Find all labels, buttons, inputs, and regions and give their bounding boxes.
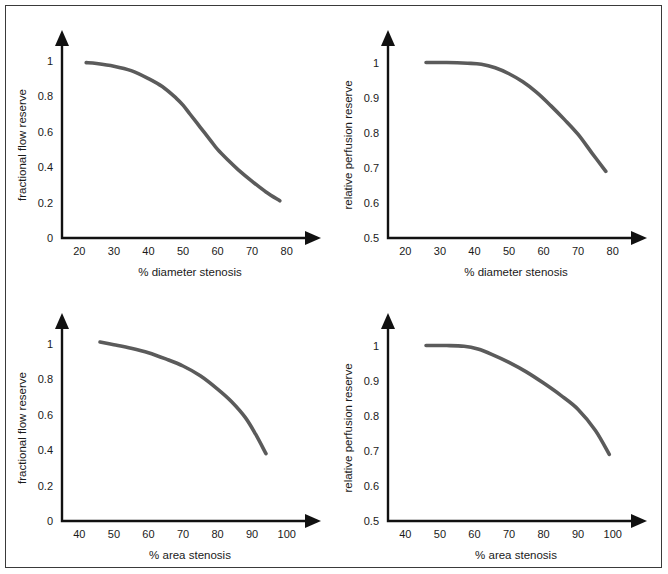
data-curve <box>426 62 606 171</box>
x-tick-label: 50 <box>177 245 189 257</box>
x-tick-label: 20 <box>73 245 85 257</box>
panel-ffr-area: 40506070809010000.20.40.60.81% area sten… <box>8 305 334 569</box>
axes <box>55 313 321 528</box>
panel-rpr-diameter: 203040506070800.50.60.70.80.91% diameter… <box>334 22 660 286</box>
axes <box>381 313 647 528</box>
data-curve <box>426 345 609 454</box>
y-tick-label: 0.6 <box>38 126 53 138</box>
y-tick-label: 0.5 <box>364 515 379 527</box>
y-axis-title: fractional flow reserve <box>16 372 28 484</box>
y-tick-label: 0.4 <box>38 444 53 456</box>
x-axis-title: % area stenosis <box>475 549 557 561</box>
y-tick-label: 0.6 <box>364 197 379 209</box>
y-axis-title: relative perfusion reserve <box>342 80 354 209</box>
x-tick-labels: 405060708090100 <box>399 528 622 540</box>
x-tick-label: 60 <box>468 528 480 540</box>
panel-rpr-area: 4050607080901000.50.60.70.80.91% area st… <box>334 305 660 569</box>
y-tick-label: 0 <box>47 232 53 244</box>
y-tick-label: 0.8 <box>38 90 53 102</box>
y-tick-labels: 0.50.60.70.80.91 <box>364 340 379 528</box>
y-tick-label: 0.8 <box>38 373 53 385</box>
data-curve <box>100 342 266 454</box>
x-tick-label: 70 <box>246 245 258 257</box>
y-tick-label: 1 <box>373 57 379 69</box>
x-tick-labels: 20304050607080 <box>399 245 619 257</box>
chart-rpr-diameter: 203040506070800.50.60.70.80.91% diameter… <box>334 22 660 286</box>
x-tick-label: 30 <box>108 245 120 257</box>
y-tick-label: 0 <box>47 515 53 527</box>
y-tick-label: 0.6 <box>38 409 53 421</box>
x-tick-label: 100 <box>604 528 622 540</box>
panel-ffr-diameter: 2030405060708000.20.40.60.81% diameter s… <box>8 22 334 286</box>
x-tick-label: 50 <box>434 528 446 540</box>
x-tick-label: 70 <box>503 528 515 540</box>
x-tick-label: 70 <box>572 245 584 257</box>
y-tick-label: 0.7 <box>364 162 379 174</box>
y-axis-title: relative perfusion reserve <box>342 363 354 492</box>
x-axis-title: % diameter stenosis <box>138 266 242 278</box>
x-axis-title: % area stenosis <box>149 549 231 561</box>
figure-container: 2030405060708000.20.40.60.81% diameter s… <box>0 0 668 574</box>
y-tick-label: 0.2 <box>38 480 53 492</box>
y-tick-label: 0.2 <box>38 197 53 209</box>
y-tick-label: 0.8 <box>364 410 379 422</box>
x-tick-label: 40 <box>468 245 480 257</box>
x-tick-label: 100 <box>278 528 296 540</box>
x-tick-label: 90 <box>246 528 258 540</box>
y-axis-title: fractional flow reserve <box>16 89 28 201</box>
x-tick-labels: 405060708090100 <box>73 528 296 540</box>
chart-ffr-area: 40506070809010000.20.40.60.81% area sten… <box>8 305 334 569</box>
x-tick-label: 80 <box>537 528 549 540</box>
x-axis-title: % diameter stenosis <box>464 266 568 278</box>
y-tick-labels: 00.20.40.60.81 <box>38 338 53 527</box>
x-tick-label: 60 <box>211 245 223 257</box>
x-tick-label: 40 <box>73 528 85 540</box>
x-tick-label: 80 <box>607 245 619 257</box>
x-tick-label: 70 <box>177 528 189 540</box>
axes <box>381 30 647 245</box>
x-tick-label: 60 <box>142 528 154 540</box>
x-tick-label: 80 <box>281 245 293 257</box>
data-curve <box>86 63 280 201</box>
y-tick-label: 0.6 <box>364 480 379 492</box>
y-tick-label: 0.8 <box>364 127 379 139</box>
y-tick-labels: 00.20.40.60.81 <box>38 55 53 244</box>
x-tick-label: 80 <box>211 528 223 540</box>
x-tick-label: 20 <box>399 245 411 257</box>
y-tick-label: 0.5 <box>364 232 379 244</box>
x-tick-label: 40 <box>399 528 411 540</box>
y-tick-label: 0.9 <box>364 375 379 387</box>
x-tick-labels: 20304050607080 <box>73 245 293 257</box>
y-tick-labels: 0.50.60.70.80.91 <box>364 57 379 245</box>
x-tick-label: 50 <box>108 528 120 540</box>
x-tick-label: 30 <box>434 245 446 257</box>
y-tick-label: 0.4 <box>38 161 53 173</box>
x-tick-label: 40 <box>142 245 154 257</box>
chart-rpr-area: 4050607080901000.50.60.70.80.91% area st… <box>334 305 660 569</box>
chart-ffr-diameter: 2030405060708000.20.40.60.81% diameter s… <box>8 22 334 286</box>
y-tick-label: 1 <box>47 55 53 67</box>
y-tick-label: 0.7 <box>364 445 379 457</box>
y-tick-label: 1 <box>47 338 53 350</box>
x-tick-label: 90 <box>572 528 584 540</box>
x-tick-label: 50 <box>503 245 515 257</box>
y-tick-label: 0.9 <box>364 92 379 104</box>
y-tick-label: 1 <box>373 340 379 352</box>
x-tick-label: 60 <box>537 245 549 257</box>
